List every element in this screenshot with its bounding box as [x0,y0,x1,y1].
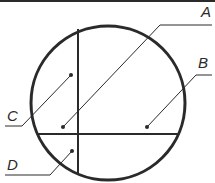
circle-region-diagram: A B C D [0,0,215,183]
leader-lines [5,25,212,175]
label-a: A [201,4,211,19]
diagram-canvas [0,0,215,183]
label-d: D [7,157,18,172]
leader-line-a [63,25,212,127]
region-dot-b [145,125,149,129]
leader-line-b [147,75,212,127]
main-circle [31,26,185,180]
region-dot-a [61,125,65,129]
label-b: B [198,55,208,70]
region-dot-d [70,149,74,153]
region-dot-c [69,73,73,77]
label-c: C [7,108,18,123]
